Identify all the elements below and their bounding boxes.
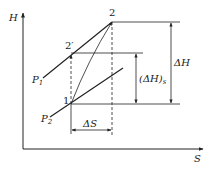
delta-s-label: ΔS [82,118,97,129]
point-2-label: 2 [109,7,115,18]
isobar-p1 [43,22,112,78]
isobar-p2-label: P2 [40,113,53,126]
x-axis-label: S [194,153,201,164]
y-axis-label: H [8,12,18,23]
delta-h-label: ΔH [173,57,190,68]
hs-diagram: H S P1 P2 ΔH (ΔH)s ΔS 2 2′ 1 [0,0,210,173]
point-1-label: 1 [63,95,69,106]
isobar-p1-label: P1 [31,74,43,87]
actual-process-curve [71,22,112,104]
point-2s-label: 2′ [65,40,74,51]
delta-h-s-label: (ΔH)s [139,73,167,86]
